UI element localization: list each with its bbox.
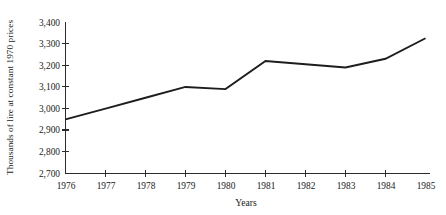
- x-tick-label: 1977: [97, 181, 116, 191]
- y-axis-tick-labels: 3,400 3,300 3,200 3,100 3,000 2,900 2,80…: [39, 18, 60, 179]
- y-axis-title: Thousands of lire at constant 1970 price…: [5, 20, 15, 175]
- x-tick-label: 1978: [137, 181, 156, 191]
- chart-canvas: Thousands of lire at constant 1970 price…: [0, 0, 446, 215]
- y-tick-label: 2,700: [39, 169, 60, 179]
- x-tick-label: 1982: [297, 181, 316, 191]
- line-chart: Thousands of lire at constant 1970 price…: [0, 0, 446, 215]
- y-tick-label: 3,400: [39, 18, 60, 28]
- x-tick-label: 1984: [377, 181, 396, 191]
- y-tick-label: 2,900: [39, 125, 60, 135]
- x-tick-label: 1981: [257, 181, 276, 191]
- x-axis-tick-labels: 1976 1977 1978 1979 1980 1981 1982 1983 …: [57, 181, 436, 191]
- series-line-lire-constant-1970-prices: [66, 38, 426, 119]
- y-tick-label: 3,000: [39, 104, 60, 114]
- x-tick-label: 1976: [57, 181, 76, 191]
- x-tick-label: 1985: [417, 181, 436, 191]
- y-tick-label: 3,300: [39, 39, 60, 49]
- y-tick-label: 3,200: [39, 61, 60, 71]
- y-tick-label: 3,100: [39, 82, 60, 92]
- x-tick-label: 1983: [337, 181, 356, 191]
- x-tick-label: 1980: [217, 181, 236, 191]
- x-axis-title: Years: [235, 197, 257, 208]
- x-tick-label: 1979: [177, 181, 196, 191]
- y-tick-label: 2,800: [39, 147, 60, 157]
